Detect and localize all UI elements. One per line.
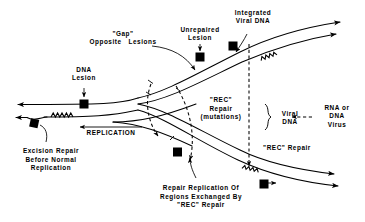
label-integrated-viral-dna: Integrated Viral DNA [222,9,284,26]
filled-square-lesion-marker-unrepaired [196,53,205,62]
fork-interior-upper [113,104,196,122]
label-viral-dna: Viral DNA [276,110,304,127]
zigzag-coil-repair-patch-lower-right [242,165,259,172]
filled-square-lesion-marker-integrated-viral [229,42,238,51]
label-excision-repair: Excision Repair Before Normal Replicatio… [8,147,94,173]
leader-repair-replication [190,158,196,178]
filled-square-lesion-marker-lower-fork [173,148,182,157]
label-rec-repair-right: "REC" Repair [254,144,320,152]
strand-upper-left-parental [18,98,138,105]
leader-gap-opposite-lesions [152,46,195,70]
label-unrepaired-lesion: Unrepaired Lesion [168,26,232,43]
exchange-tick-group [146,80,180,140]
dna-repair-replication-diagram: DNA Lesion "Gap" Opposite Lesions Unrepa… [0,0,365,222]
zigzag-coil-repair-patch-upper-right [260,51,277,60]
label-repair-replication: Repair Replication Of Regions Exchanged … [136,184,266,210]
strand-lower-left-tail [27,117,47,119]
label-rec-repair-mutations: "REC" Repair (mutations) [192,96,250,122]
label-gap-opposite-lesions: "Gap" Opposite Lesions [84,30,162,47]
curly-brace-viral-dna [265,104,271,130]
leader-excision-repair [40,125,47,142]
dashed-rec-repair-arrow-left [147,84,158,136]
filled-square-lesion-marker-dna-lesion [80,100,89,109]
label-rna-or-dna-virus: RNA or DNA Virus [318,104,356,129]
filled-square-lesion-marker-excision [29,118,39,128]
label-dna-lesion: DNA Lesion [58,66,110,83]
label-replication: REPLICATION [77,129,145,137]
